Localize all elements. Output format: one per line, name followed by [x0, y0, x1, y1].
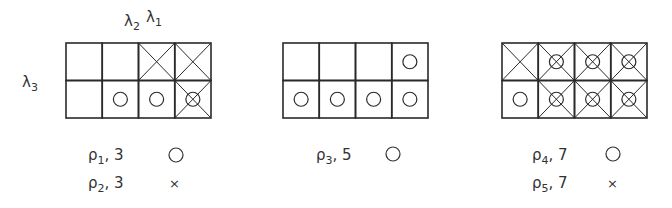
grid-cell	[66, 81, 102, 119]
legend-rho1-label: ρ1, 3	[88, 146, 124, 167]
legend-rho3-label: ρ3, 5	[316, 146, 352, 167]
circle-marker-icon	[606, 147, 620, 161]
grid-cell	[139, 81, 175, 119]
circle-icon	[294, 92, 308, 106]
circle-marker-icon	[169, 148, 183, 162]
grid-cell	[283, 81, 319, 119]
grid-cell	[283, 43, 319, 81]
grid-cell	[319, 81, 355, 119]
diagram-canvas: λ2 λ1 λ3 ρ1, 3 ρ2, 3 × ρ3, 5 ρ4, 7 ρ5, 7…	[0, 0, 672, 208]
cross-marker-icon: ×	[169, 176, 180, 191]
circle-icon	[113, 92, 127, 106]
circle-icon	[367, 92, 381, 106]
circle-icon	[150, 92, 164, 106]
grid-cell	[502, 81, 538, 119]
lambda-1-label: λ1	[146, 8, 162, 29]
circle-marker-icon	[386, 147, 400, 161]
legend-rho4-label: ρ4, 7	[532, 146, 568, 167]
grid-cell	[102, 43, 138, 81]
legend-middle: ρ3, 5	[316, 146, 400, 167]
grid-cell	[66, 43, 102, 81]
circle-icon	[403, 92, 417, 106]
legend-left: ρ1, 3 ρ2, 3 ×	[88, 146, 183, 195]
grid-cell	[392, 81, 428, 119]
legend-rho2-label: ρ2, 3	[88, 174, 124, 195]
legend-right: ρ4, 7 ρ5, 7 ×	[532, 146, 620, 195]
legend-rho5-label: ρ5, 7	[532, 174, 568, 195]
grid-cell	[356, 43, 392, 81]
lambda-3-label: λ3	[22, 73, 38, 94]
grid-right	[502, 43, 647, 118]
grid-cell	[392, 43, 428, 81]
grid-cell	[102, 81, 138, 119]
grid-cell	[319, 43, 355, 81]
grid-left	[66, 43, 211, 118]
cross-marker-icon: ×	[607, 176, 618, 191]
grid-cell	[356, 81, 392, 119]
circle-icon	[330, 92, 344, 106]
grid-middle	[283, 43, 428, 118]
lambda-2-label: λ2	[124, 12, 140, 33]
circle-icon	[403, 55, 417, 69]
circle-icon	[513, 92, 527, 106]
